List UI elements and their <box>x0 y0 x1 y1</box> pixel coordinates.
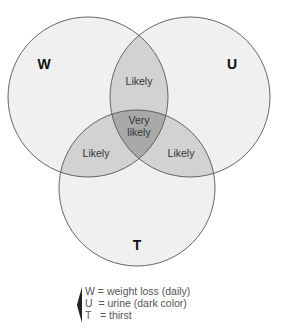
region-label-w-u: Likely <box>118 75 160 87</box>
set-label-t: T <box>129 237 145 253</box>
legend-item-u: U = urine (dark color) <box>85 297 190 309</box>
region-label-w-u-t-line1: Very <box>118 114 160 126</box>
legend-item-w: W = weight loss (daily) <box>85 285 190 297</box>
region-label-w-u-t-line2: likely <box>118 126 160 138</box>
region-label-w-t: Likely <box>75 147 117 159</box>
legend-item-t: T = thirst <box>85 309 190 321</box>
legend-bracket-icon <box>76 287 84 323</box>
region-label-u-t: Likely <box>160 147 202 159</box>
set-label-u: U <box>224 56 240 72</box>
region-label-w-u-t: Very likely <box>118 114 160 138</box>
set-label-w: W <box>36 56 52 72</box>
legend: W = weight loss (daily) U = urine (dark … <box>85 285 190 321</box>
venn-diagram <box>0 0 285 332</box>
